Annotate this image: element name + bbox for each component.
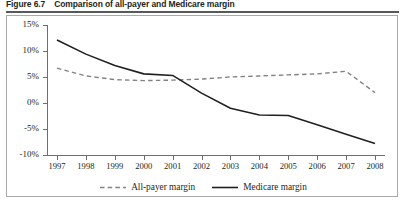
legend-item-medicare-margin: Medicare margin (212, 182, 307, 192)
legend-item-all-payer-margin: All-payer margin (100, 182, 195, 192)
legend-swatch-solid (212, 184, 238, 191)
series-medicare-margin (57, 40, 375, 143)
legend-swatch-dashed (100, 184, 126, 191)
series-all-payer-margin (57, 68, 375, 92)
legend-label-medicare-margin: Medicare margin (243, 182, 307, 192)
chart-legend: All-payer margin Medicare margin (0, 182, 407, 192)
chart-series-layer (0, 0, 407, 208)
legend-label-all-payer-margin: All-payer margin (131, 182, 195, 192)
figure-container: Figure 6.7Comparison of all-payer and Me… (0, 0, 407, 208)
